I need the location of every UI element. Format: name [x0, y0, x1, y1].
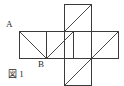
- diagonal-top: [65, 5, 92, 32]
- figure-caption: 図 1: [8, 69, 24, 79]
- vertex-label-a: A: [6, 20, 13, 29]
- diagonal-middle-2: [47, 32, 74, 59]
- square-middle-3: [65, 32, 92, 59]
- figure-container: A B 図 1: [0, 0, 124, 86]
- diagonal-bottom: [65, 59, 92, 86]
- net-square-outlines: [20, 5, 119, 86]
- diagonal-middle-4: [92, 32, 119, 59]
- vertex-label-b: B: [38, 60, 44, 69]
- diagonal-middle-1: [20, 32, 47, 59]
- net-diagonal-lines: [20, 5, 119, 86]
